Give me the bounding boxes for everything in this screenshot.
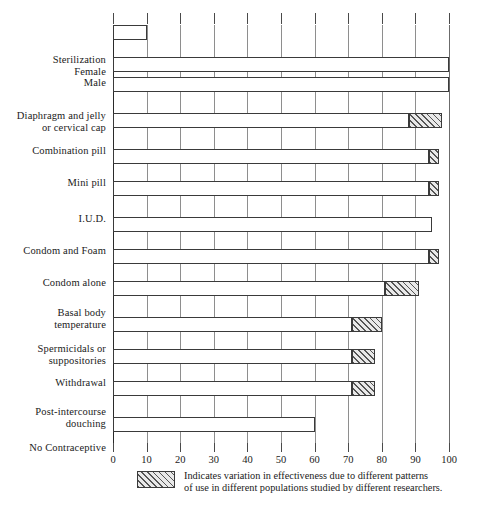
x-axis-tick-label: 80	[377, 454, 388, 465]
tick-top-100	[449, 13, 450, 24]
bar-row	[113, 317, 449, 332]
x-axis-tick-label: 60	[309, 454, 320, 465]
bar-row	[113, 113, 449, 128]
bar-row	[113, 217, 449, 232]
tick-top-50	[281, 13, 282, 24]
tick-bottom-70	[348, 443, 349, 452]
bar-segment-solid	[113, 317, 352, 332]
category-label: Post-intercourse douching	[35, 406, 106, 429]
legend-hatch-swatch	[137, 471, 175, 488]
category-label: Diaphragm and jelly or cervical cap	[17, 110, 106, 133]
tick-top-30	[214, 13, 215, 24]
bar-segment-solid	[113, 249, 429, 264]
bar-segment-solid	[113, 281, 385, 296]
bar-row	[113, 149, 449, 164]
tick-bottom-100	[449, 443, 450, 452]
bar-row	[113, 77, 449, 92]
tick-top-40	[247, 13, 248, 24]
tick-bottom-60	[315, 443, 316, 452]
tick-bottom-10	[147, 443, 148, 452]
bar-segment-solid	[113, 217, 432, 232]
bar-segment-solid	[113, 149, 429, 164]
category-label-group: Sterilization Female MaleDiaphragm and j…	[0, 25, 106, 443]
bar-segment-variation	[429, 149, 439, 164]
bar-segment-variation	[352, 317, 382, 332]
tick-bottom-80	[382, 443, 383, 452]
bar-row	[113, 25, 449, 40]
bar-segment-solid	[113, 181, 429, 196]
chart-legend: Indicates variation in effectiveness due…	[137, 470, 442, 494]
category-label: No Contraceptive	[29, 442, 106, 454]
bar-segment-solid	[113, 25, 147, 40]
tick-bottom-40	[247, 443, 248, 452]
tick-bottom-30	[214, 443, 215, 452]
tick-top-90	[415, 13, 416, 24]
category-label: Condom and Foam	[23, 245, 106, 257]
bar-segment-variation	[352, 381, 376, 396]
tick-top-10	[147, 13, 148, 24]
bar-segment-solid	[113, 381, 352, 396]
bar-segment-solid	[113, 77, 449, 92]
x-axis-tick-label: 70	[343, 454, 354, 465]
tick-bottom-90	[415, 443, 416, 452]
bar-segment-solid	[113, 113, 409, 128]
legend-description: Indicates variation in effectiveness due…	[184, 470, 442, 494]
tick-bottom-50	[281, 443, 282, 452]
bar-segment-variation	[385, 281, 419, 296]
category-label: Withdrawal	[55, 377, 106, 389]
bar-row	[113, 249, 449, 264]
bar-row	[113, 181, 449, 196]
x-axis-tick-label: 10	[141, 454, 152, 465]
bar-row	[113, 349, 449, 364]
tick-top-70	[348, 13, 349, 24]
gridline-100	[449, 25, 450, 443]
x-axis-tick-label: 100	[441, 454, 457, 465]
bar-row	[113, 57, 449, 72]
tick-bottom-20	[180, 443, 181, 452]
bar-chart-contraceptive-effectiveness: Sterilization Female MaleDiaphragm and j…	[0, 0, 479, 514]
tick-top-0	[113, 13, 114, 24]
bar-row	[113, 381, 449, 396]
bar-segment-variation	[429, 181, 439, 196]
x-axis-tick-label: 40	[242, 454, 253, 465]
tick-top-20	[180, 13, 181, 24]
tick-top-60	[315, 13, 316, 24]
plot-area: 0102030405060708090100	[113, 25, 449, 443]
tick-top-80	[382, 13, 383, 24]
category-label: I.U.D.	[79, 213, 106, 225]
bar-segment-solid	[113, 417, 315, 432]
tick-bottom-0	[113, 443, 114, 452]
category-label: Mini pill	[68, 177, 106, 189]
x-axis-tick-label: 0	[110, 454, 115, 465]
x-axis-tick-label: 30	[209, 454, 220, 465]
category-label: Spermicidals or suppositories	[38, 343, 106, 366]
bar-segment-variation	[352, 349, 376, 364]
bar-segment-variation	[429, 249, 439, 264]
x-axis-tick-label: 20	[175, 454, 186, 465]
bar-segment-variation	[409, 113, 443, 128]
x-axis-tick-label: 50	[276, 454, 287, 465]
bar-segment-solid	[113, 349, 352, 364]
bar-row	[113, 417, 449, 432]
bar-row	[113, 281, 449, 296]
category-label: Basal body temperature	[54, 307, 106, 330]
x-axis-tick-label: 90	[410, 454, 421, 465]
category-label: Sterilization Female Male	[53, 54, 106, 89]
category-label: Condom alone	[43, 277, 106, 289]
bar-segment-solid	[113, 57, 449, 72]
category-label: Combination pill	[32, 145, 106, 157]
